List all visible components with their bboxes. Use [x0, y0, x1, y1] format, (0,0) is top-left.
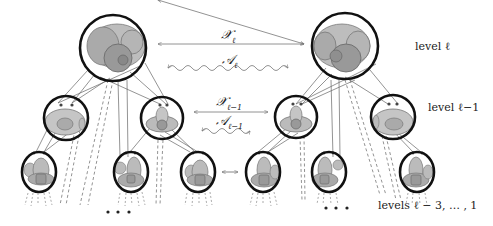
right-dashed-top [345, 80, 386, 195]
left-grandchild-node-2 [114, 152, 148, 192]
label-level-l-minus-1: level ℓ−1 [428, 101, 479, 114]
right-child-node-1 [275, 96, 317, 138]
diagram-canvas: 𝒳ℓ 𝒜ℓ 𝒳ℓ−1 𝒜ℓ−1 level ℓ level ℓ−1 levels… [0, 0, 493, 226]
label-X-l: 𝒳ℓ [221, 27, 235, 45]
label-levels-lower: levels ℓ − 3, … , 1 [378, 199, 477, 212]
right-dashed-mid [300, 136, 401, 200]
label-A-l: 𝒜ℓ [222, 52, 237, 70]
right-child-node-2 [371, 95, 415, 139]
right-grandchild-node-3 [400, 152, 434, 192]
right-root-node [312, 13, 378, 79]
left-root-node [80, 15, 146, 81]
left-grandchild-node-3 [181, 152, 215, 192]
left-child-node-2 [141, 97, 183, 139]
label-X-l-minus-1: 𝒳ℓ−1 [216, 94, 242, 112]
left-grandchild-node-1 [22, 152, 56, 192]
left-dashed-top [80, 80, 113, 205]
right-grandchild-node-2 [312, 152, 346, 192]
left-child-node-1 [44, 96, 88, 140]
label-level-l: level ℓ [415, 40, 450, 53]
right-grandchild-node-1 [246, 152, 280, 192]
ellipsis-dots [106, 206, 348, 213]
left-edges-top [58, 63, 168, 157]
tree-diagram [0, 0, 493, 226]
left-tails [25, 192, 212, 206]
label-A-l-minus-1: 𝒜ℓ−1 [216, 113, 243, 131]
right-tree [246, 13, 434, 206]
